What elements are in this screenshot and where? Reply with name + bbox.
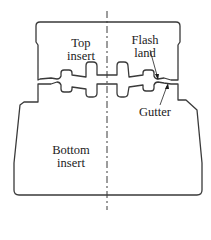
top-insert-label: Top insert xyxy=(56,37,106,63)
flash-land-label: Flash land xyxy=(120,34,170,60)
gutter-label-text: Gutter xyxy=(130,106,180,119)
bottom-insert-label-line2: insert xyxy=(46,157,96,170)
top-insert-label-line2: insert xyxy=(56,50,106,63)
bottom-insert-label: Bottom insert xyxy=(46,144,96,170)
flash-land-label-line2: land xyxy=(120,47,170,60)
gutter-label: Gutter xyxy=(130,106,180,119)
bottom-insert-outline xyxy=(14,82,202,195)
